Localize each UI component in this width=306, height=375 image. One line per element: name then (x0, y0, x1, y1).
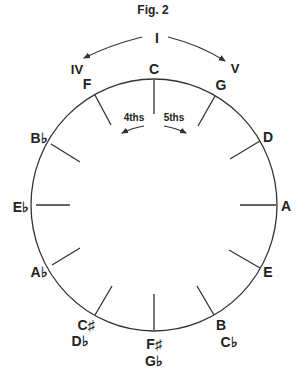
key-label-f: F (83, 76, 92, 92)
roman-subdominant-label: IV (71, 62, 84, 77)
arrow-to-dominant (168, 37, 225, 61)
key-label-c-sharp: C♯ (77, 317, 95, 333)
key-label-g-flat: G♭ (145, 353, 163, 369)
key-label-b-flat: B♭ (30, 130, 47, 146)
roman-dominant-label: V (231, 61, 240, 76)
fifths-direction-arrow (164, 126, 186, 133)
key-label-d: D (263, 129, 273, 145)
key-label-b: B (216, 317, 226, 333)
roman-tonic-label: I (155, 30, 159, 46)
key-label-g: G (216, 77, 227, 93)
key-label-a-flat: A♭ (30, 264, 47, 280)
key-ticks (36, 80, 276, 330)
circle-of-fifths-diagram: Fig. 2 I IV V 4ths 5ths C G D A E B C♭ F… (0, 0, 306, 375)
key-label-d-flat: D♭ (71, 333, 88, 349)
figure-title: Fig. 2 (137, 3, 169, 17)
key-label-c: C (149, 61, 159, 77)
key-label-e: E (263, 264, 272, 280)
fourths-direction-arrow (122, 126, 144, 133)
key-label-c-flat: C♭ (220, 334, 237, 350)
fifths-label: 5ths (164, 112, 185, 123)
fourths-label: 4ths (124, 112, 145, 123)
arrow-to-subdominant (84, 37, 142, 58)
key-label-a: A (281, 198, 291, 214)
key-label-f-sharp: F♯ (146, 336, 163, 352)
key-label-e-flat: E♭ (13, 199, 29, 215)
